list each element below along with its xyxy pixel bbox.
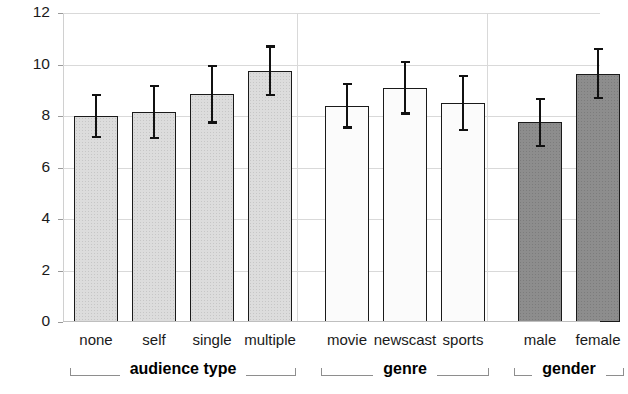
y-axis-tick-mark (58, 116, 63, 117)
error-bar-single (211, 66, 213, 123)
y-axis-tick-label: 6 (8, 159, 50, 175)
y-axis-tick-mark (58, 219, 63, 220)
x-axis-tick-label-female: female (553, 330, 628, 350)
bar-single (190, 94, 234, 322)
error-bar-cap-lower-none (92, 136, 101, 138)
error-bar-cap-upper-sports (459, 75, 468, 77)
y-axis-tick-label: 10 (8, 56, 50, 72)
error-bar-cap-upper-movie (343, 83, 352, 85)
group-brackets: audience typegenregender (0, 358, 610, 390)
error-bar-male (539, 99, 541, 145)
y-axis-tick-mark (58, 65, 63, 66)
bar-movie (325, 106, 369, 322)
gridline (63, 13, 600, 14)
bar-newscast (383, 88, 427, 322)
x-axis-baseline (63, 321, 600, 322)
error-bar-movie (346, 84, 348, 128)
error-bar-cap-upper-newscast (401, 61, 410, 63)
error-bar-female (597, 49, 599, 98)
error-bar-cap-upper-multiple (266, 45, 275, 47)
error-bar-multiple (269, 46, 271, 95)
bar-self (132, 112, 176, 322)
bar-male (518, 122, 562, 322)
y-axis-tick-label: 8 (8, 107, 50, 123)
bracket-line-left (321, 375, 373, 376)
bracket-line-right (606, 375, 624, 376)
bar-multiple (248, 71, 292, 322)
error-bar-newscast (404, 62, 406, 114)
y-axis-tick-mark (58, 13, 63, 14)
error-bar-none (95, 95, 97, 136)
bracket-line-left (70, 375, 120, 376)
error-bar-cap-upper-male (536, 98, 545, 100)
y-axis-tick-label: 0 (8, 313, 50, 329)
group-separator-line (297, 13, 298, 322)
bracket-line-right (437, 375, 489, 376)
group-bracket-genre: genre (321, 358, 489, 388)
error-bar-cap-lower-multiple (266, 94, 275, 96)
x-axis-tick-labels: noneselfsinglemultiplemovienewscastsport… (0, 330, 610, 352)
gridline (63, 65, 600, 66)
group-label: genre (321, 358, 489, 380)
group-label: gender (514, 358, 624, 380)
bar-sports (441, 103, 485, 322)
group-bracket-audience-type: audience type (70, 358, 296, 388)
group-label: audience type (70, 358, 296, 380)
y-axis-tick-label: 2 (8, 262, 50, 278)
y-axis-tick-label: 12 (8, 4, 50, 20)
y-axis-tick-mark (58, 168, 63, 169)
group-bracket-gender: gender (514, 358, 624, 388)
error-bar-cap-lower-movie (343, 126, 352, 128)
error-bar-sports (462, 76, 464, 130)
error-bar-cap-upper-none (92, 94, 101, 96)
plot-area (63, 13, 600, 322)
error-bar-cap-lower-sports (459, 129, 468, 131)
y-axis-tick-mark (58, 271, 63, 272)
y-axis-tick-label: 4 (8, 210, 50, 226)
error-bar-cap-upper-self (150, 85, 159, 87)
error-bar-cap-lower-newscast (401, 112, 410, 114)
error-bar-cap-upper-single (208, 65, 217, 67)
bar-none (74, 116, 118, 322)
bracket-line-right (246, 375, 296, 376)
error-bar-self (153, 86, 155, 138)
group-separator-line (487, 13, 488, 322)
y-axis-tick-mark (58, 322, 63, 323)
error-bar-cap-lower-single (208, 121, 217, 123)
error-bar-cap-lower-male (536, 145, 545, 147)
error-bar-cap-lower-self (150, 137, 159, 139)
bar-female (576, 74, 620, 322)
error-bar-cap-upper-female (594, 48, 603, 50)
bracket-line-left (514, 375, 532, 376)
error-bar-cap-lower-female (594, 97, 603, 99)
